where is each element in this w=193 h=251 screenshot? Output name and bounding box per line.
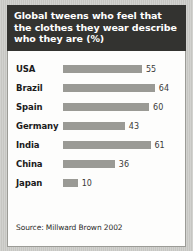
bar-cell-china: 36 (62, 155, 179, 174)
bar-value-brazil: 64 (159, 84, 169, 93)
bar-india (63, 141, 150, 149)
bar-value-usa: 55 (146, 65, 156, 74)
table-row: Germany 43 (15, 117, 179, 136)
bar-value-china: 36 (119, 160, 129, 169)
bar-label-spain: Spain (15, 98, 62, 117)
bar-value-spain: 60 (153, 103, 163, 112)
figure-container: Global tweens who feel that the clothes … (0, 0, 193, 251)
bar-label-germany: Germany (15, 117, 62, 136)
bar-value-india: 61 (155, 141, 165, 150)
bar-germany (63, 122, 124, 130)
table-row: USA 55 (15, 60, 179, 79)
bar-label-japan: Japan (15, 174, 62, 193)
chart-plot-area: USA 55 Brazil 64 (7, 51, 186, 247)
table-row: Japan 10 (15, 174, 179, 193)
chart-card: Global tweens who feel that the clothes … (7, 5, 186, 244)
bar-label-usa: USA (15, 60, 62, 79)
bar-japan (63, 179, 77, 187)
bar-spain (63, 103, 149, 111)
bar-value-germany: 43 (129, 122, 139, 131)
bar-value-japan: 10 (82, 179, 92, 188)
table-row: Spain 60 (15, 98, 179, 117)
table-row: China 36 (15, 155, 179, 174)
bar-label-india: India (15, 136, 62, 155)
bar-rows: USA 55 Brazil 64 (15, 60, 179, 193)
table-row: India 61 (15, 136, 179, 155)
chart-source: Source: Millward Brown 2002 (16, 223, 123, 232)
bar-usa (63, 65, 142, 73)
bar-cell-usa: 55 (62, 60, 179, 79)
bar-cell-spain: 60 (62, 98, 179, 117)
chart-title: Global tweens who feel that the clothes … (7, 5, 186, 51)
bar-cell-brazil: 64 (62, 79, 179, 98)
bar-cell-germany: 43 (62, 117, 179, 136)
bar-cell-india: 61 (62, 136, 179, 155)
bar-label-brazil: Brazil (15, 79, 62, 98)
table-row: Brazil 64 (15, 79, 179, 98)
bar-china (63, 160, 114, 168)
bar-label-china: China (15, 155, 62, 174)
bar-cell-japan: 10 (62, 174, 179, 193)
bar-brazil (63, 84, 154, 92)
